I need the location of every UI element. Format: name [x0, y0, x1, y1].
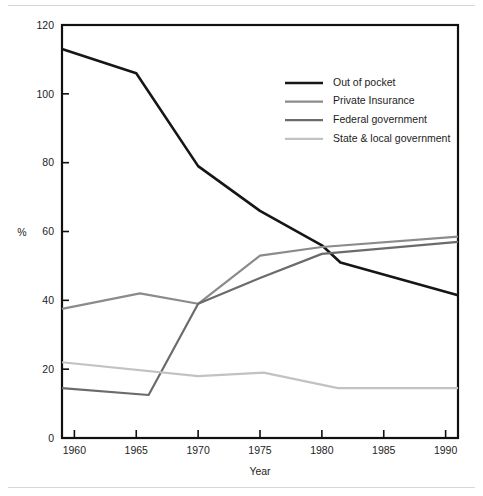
y-tick-label-100: 100: [36, 88, 54, 100]
x-tick-label-1980: 1980: [310, 444, 334, 456]
legend-label-private-insurance: Private Insurance: [333, 94, 415, 106]
x-tick-label-1960: 1960: [63, 444, 87, 456]
legend-label-out-of-pocket: Out of pocket: [333, 76, 396, 88]
x-axis-title: Year: [249, 465, 271, 477]
y-tick-label-80: 80: [42, 156, 54, 168]
x-tick-label-1985: 1985: [372, 444, 396, 456]
plot-frame: [62, 25, 458, 438]
y-axis-ticks: 020406080100120: [36, 19, 69, 444]
figure-root: 020406080100120 196019651970197519801985…: [0, 0, 483, 496]
x-tick-label-1990: 1990: [434, 444, 458, 456]
y-tick-label-60: 60: [42, 225, 54, 237]
y-axis-title: %: [17, 226, 26, 238]
x-tick-label-1965: 1965: [125, 444, 149, 456]
y-tick-label-20: 20: [42, 363, 54, 375]
legend-label-federal-government: Federal government: [333, 113, 427, 125]
legend-label-state-local-government: State & local government: [333, 132, 450, 144]
series-line-state-local-government: [62, 362, 458, 388]
x-tick-label-1975: 1975: [248, 444, 272, 456]
x-axis-ticks: 1960196519701975198019851990: [63, 430, 458, 456]
y-tick-label-40: 40: [42, 294, 54, 306]
line-chart: 020406080100120 196019651970197519801985…: [0, 0, 483, 496]
chart-legend: Out of pocketPrivate InsuranceFederal go…: [285, 76, 450, 144]
x-tick-label-1970: 1970: [186, 444, 210, 456]
y-tick-label-0: 0: [48, 432, 54, 444]
y-tick-label-120: 120: [36, 19, 54, 31]
series-line-out-of-pocket: [62, 49, 458, 295]
